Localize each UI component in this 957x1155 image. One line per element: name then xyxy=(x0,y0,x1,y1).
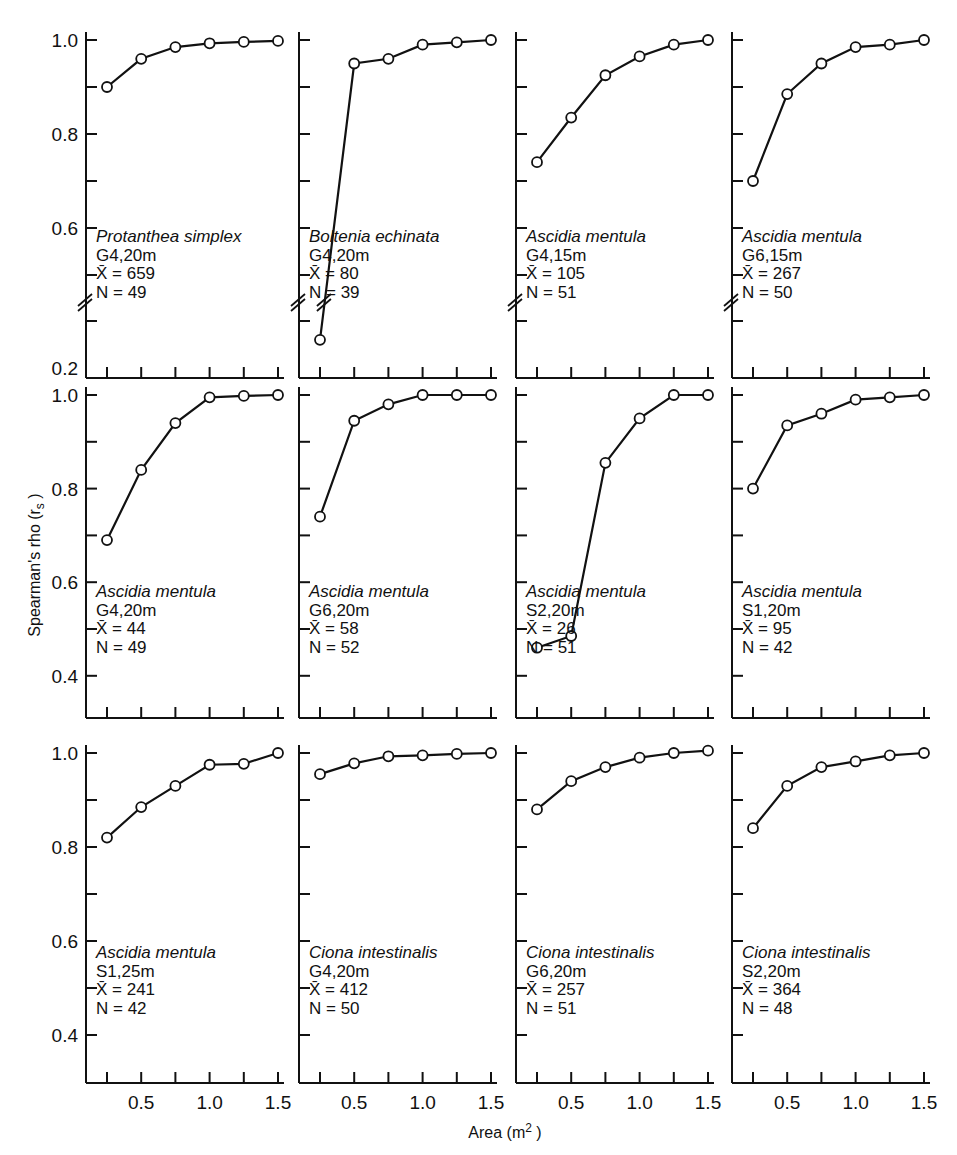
site-label: G6,20m xyxy=(526,962,586,981)
data-line xyxy=(753,40,924,181)
species-label: Ascidia mentula xyxy=(525,582,646,601)
data-point-marker xyxy=(102,833,112,843)
y-tick-label: 0.6 xyxy=(52,218,78,239)
data-line xyxy=(753,395,924,489)
data-line xyxy=(537,40,708,162)
mean-label: X̄ = 257 xyxy=(526,980,585,999)
panel-r2-c4: Ascidia mentulaS1,20mX̄ = 95N = 42 xyxy=(732,387,930,718)
chart-row-2: 1.00.80.60.4Ascidia mentulaG4,20mX̄ = 44… xyxy=(52,385,930,718)
data-point-marker xyxy=(239,391,249,401)
sample-size-label: N = 50 xyxy=(742,283,793,302)
data-point-marker xyxy=(136,802,146,812)
data-point-marker xyxy=(782,781,792,791)
data-point-marker xyxy=(748,484,758,494)
panel-r3-c3: 0.51.01.5Ciona intestinalisG6,20mX̄ = 25… xyxy=(516,745,721,1113)
species-label: Ciona intestinalis xyxy=(309,943,438,962)
data-point-marker xyxy=(703,390,713,400)
site-label: G4,20m xyxy=(309,246,369,265)
data-point-marker xyxy=(452,37,462,47)
species-label: Ciona intestinalis xyxy=(526,943,655,962)
data-line xyxy=(107,753,278,838)
data-point-marker xyxy=(239,37,249,47)
data-point-marker xyxy=(315,335,325,345)
mean-label: X̄ = 241 xyxy=(96,980,155,999)
panel-r1-c4: Ascidia mentulaG6,15mX̄ = 267N = 50 xyxy=(724,32,930,378)
mean-label: X̄ = 95 xyxy=(742,619,792,638)
data-point-marker xyxy=(452,749,462,759)
data-point-marker xyxy=(418,40,428,50)
data-point-marker xyxy=(486,35,496,45)
data-point-marker xyxy=(383,54,393,64)
species-label: Protanthea simplex xyxy=(96,227,242,246)
chart-row-1: 1.00.80.60.2Protanthea simplexG4,20mX̄ =… xyxy=(52,30,930,379)
species-label: Ascidia mentula xyxy=(95,582,216,601)
data-point-marker xyxy=(136,54,146,64)
site-label: S2,20m xyxy=(742,962,801,981)
mean-label: X̄ = 58 xyxy=(309,619,359,638)
y-tick-label: 0.4 xyxy=(52,666,79,687)
site-label: S1,20m xyxy=(742,601,801,620)
data-line xyxy=(753,753,924,828)
data-point-marker xyxy=(635,413,645,423)
species-label: Ascidia mentula xyxy=(525,227,646,246)
x-tick-label: 1.5 xyxy=(265,1092,291,1113)
data-point-marker xyxy=(273,36,283,46)
data-point-marker xyxy=(851,756,861,766)
data-point-marker xyxy=(136,465,146,475)
x-tick-label: 1.0 xyxy=(842,1092,868,1113)
species-label: Ascidia mentula xyxy=(741,582,862,601)
data-point-marker xyxy=(600,458,610,468)
mean-label: X̄ = 44 xyxy=(96,619,146,638)
data-point-marker xyxy=(919,35,929,45)
mean-label: X̄ = 364 xyxy=(742,980,801,999)
sample-size-label: N = 49 xyxy=(96,283,147,302)
data-point-marker xyxy=(703,746,713,756)
panel-r1-c2: Boltenia echinataG4,20mX̄ = 80N = 39 xyxy=(291,32,497,378)
panel-r2-c2: Ascidia mentulaG6,20mX̄ = 58N = 52 xyxy=(299,387,497,718)
species-label: Ciona intestinalis xyxy=(742,943,871,962)
data-point-marker xyxy=(532,157,542,167)
sample-size-label: N = 51 xyxy=(526,999,577,1018)
data-line xyxy=(320,753,491,774)
mean-label: X̄ = 26 xyxy=(526,619,576,638)
x-tick-label: 1.0 xyxy=(626,1092,652,1113)
data-point-marker xyxy=(486,390,496,400)
data-point-marker xyxy=(102,82,112,92)
mean-label: X̄ = 105 xyxy=(526,264,585,283)
data-point-marker xyxy=(315,512,325,522)
data-line xyxy=(107,395,278,540)
data-point-marker xyxy=(782,89,792,99)
data-point-marker xyxy=(273,390,283,400)
y-tick-label: 0.8 xyxy=(52,837,78,858)
data-point-marker xyxy=(600,70,610,80)
data-point-marker xyxy=(170,418,180,428)
data-point-marker xyxy=(669,390,679,400)
species-label: Ascidia mentula xyxy=(741,227,862,246)
data-point-marker xyxy=(205,392,215,402)
x-tick-label: 0.5 xyxy=(341,1092,367,1113)
panel-r3-c2: 0.51.01.5Ciona intestinalisG4,20mX̄ = 41… xyxy=(299,745,504,1113)
data-point-marker xyxy=(885,750,895,760)
data-point-marker xyxy=(418,390,428,400)
mean-label: X̄ = 80 xyxy=(309,264,359,283)
data-point-marker xyxy=(349,59,359,69)
sample-size-label: N = 52 xyxy=(309,638,360,657)
x-tick-label: 1.5 xyxy=(695,1092,721,1113)
species-label: Ascidia mentula xyxy=(95,943,216,962)
site-label: G6,15m xyxy=(742,246,802,265)
data-line xyxy=(537,751,708,810)
chart-canvas: 1.00.80.60.2Protanthea simplexG4,20mX̄ =… xyxy=(0,0,957,1155)
sample-size-label: N = 42 xyxy=(96,999,147,1018)
panel-r2-c3: Ascidia mentulaS2,20mX̄ = 26N = 51 xyxy=(516,387,714,718)
y-tick-label: 0.4 xyxy=(52,1025,79,1046)
data-point-marker xyxy=(239,759,249,769)
y-tick-label: 1.0 xyxy=(52,743,78,764)
small-multiples-figure: 1.00.80.60.2Protanthea simplexG4,20mX̄ =… xyxy=(0,0,957,1155)
y-tick-label: 1.0 xyxy=(52,30,78,51)
sample-size-label: N = 50 xyxy=(309,999,360,1018)
y-tick-label: 0.8 xyxy=(52,124,78,145)
data-point-marker xyxy=(782,420,792,430)
sample-size-label: N = 51 xyxy=(526,283,577,302)
data-point-marker xyxy=(532,804,542,814)
site-label: G4,15m xyxy=(526,246,586,265)
